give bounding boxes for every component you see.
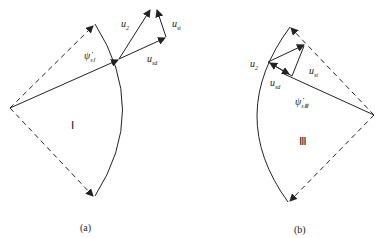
flux-label-a: ψ̇sⅠ <box>84 51 95 63</box>
u2-sub-b: 2 <box>255 65 258 71</box>
usd-label-b: usd <box>270 78 280 90</box>
ust-sub-a: st <box>177 25 181 31</box>
u2-label-b: u2 <box>250 59 258 71</box>
ust-sub-b: st <box>314 72 318 78</box>
dashed-radius-upper-a <box>10 26 93 108</box>
arc-b <box>257 27 290 202</box>
flux-sub-b: sⅢ <box>301 103 307 109</box>
region-label-a: Ⅰ <box>71 120 74 131</box>
ust-label-a: ust <box>172 19 181 31</box>
caption-b: (b) <box>294 225 306 235</box>
usd-sub-a: sd <box>152 60 157 66</box>
panel-a-graphic <box>10 10 166 196</box>
vector-diagram <box>0 0 381 238</box>
flux-label-b: ψ̇sⅢ <box>295 97 308 109</box>
flux-sub-a: sⅠ <box>90 57 94 63</box>
dashed-radius-lower-b <box>290 115 374 201</box>
usd-label-a: usd <box>147 54 157 66</box>
dashed-radius-lower-a <box>10 108 93 196</box>
usd-sub-b: sd <box>275 84 280 90</box>
u2-sub-a: 2 <box>126 25 129 31</box>
u2-label-a: u2 <box>121 19 129 31</box>
ust-vector-b <box>292 46 304 76</box>
ust-label-b: ust <box>309 66 318 78</box>
panel-b-graphic <box>257 27 374 202</box>
flux-vector-a <box>10 60 118 108</box>
caption-a: (a) <box>80 223 91 233</box>
arc-a <box>95 24 123 196</box>
usd-vector-b2 <box>268 62 289 74</box>
ust-vector-a <box>157 10 166 37</box>
region-label-b: Ⅲ <box>299 136 307 147</box>
